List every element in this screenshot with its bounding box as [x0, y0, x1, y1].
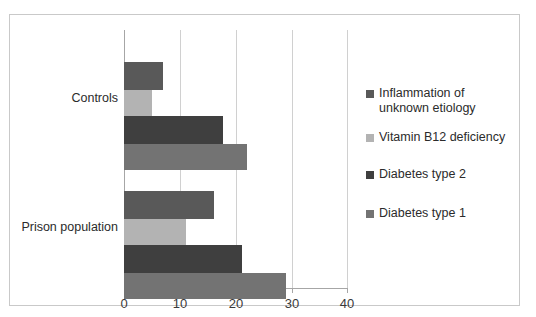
plot-area	[124, 30, 348, 288]
legend-label: Diabetes type 1	[379, 206, 466, 221]
gridline-40	[347, 30, 348, 288]
bar-chart: Controls Prison population 0 10 20 30 40	[0, 0, 536, 317]
legend-item-vitamin-b12[interactable]: Vitamin B12 deficiency	[366, 130, 516, 145]
legend-swatch-icon	[366, 90, 374, 98]
tick-mark-40	[347, 288, 348, 293]
bar-controls-inflammation	[124, 62, 163, 90]
bar-prison-diabetes-type-1	[124, 273, 286, 299]
bar-controls-diabetes-type-2	[124, 116, 223, 144]
bar-prison-inflammation	[124, 191, 214, 219]
tick-label-40: 40	[327, 296, 367, 311]
legend-swatch-icon	[366, 210, 374, 218]
tick-label-10: 10	[160, 296, 200, 311]
tick-label-0: 0	[104, 296, 144, 311]
bar-controls-vitamin-b12	[124, 90, 152, 116]
tick-mark-30	[292, 288, 293, 293]
legend-label: Vitamin B12 deficiency	[379, 130, 505, 145]
legend-item-diabetes-type-2[interactable]: Diabetes type 2	[366, 167, 516, 182]
tick-label-30: 30	[272, 296, 312, 311]
tick-label-20: 20	[216, 296, 256, 311]
legend-item-inflammation[interactable]: Inflammation of unknown etiology	[366, 86, 516, 116]
gridline-30	[292, 30, 293, 288]
bar-prison-diabetes-type-2	[124, 245, 242, 273]
legend-swatch-icon	[366, 171, 374, 179]
legend-item-diabetes-type-1[interactable]: Diabetes type 1	[366, 206, 516, 221]
bar-prison-vitamin-b12	[124, 219, 186, 245]
chart-legend: Inflammation of unknown etiology Vitamin…	[366, 86, 516, 235]
bar-controls-diabetes-type-1	[124, 144, 247, 170]
category-label-prison-population: Prison population	[8, 220, 118, 234]
legend-swatch-icon	[366, 134, 374, 142]
legend-label: Diabetes type 2	[379, 167, 466, 182]
legend-label: Inflammation of unknown etiology	[379, 86, 516, 116]
category-label-controls: Controls	[8, 91, 118, 105]
